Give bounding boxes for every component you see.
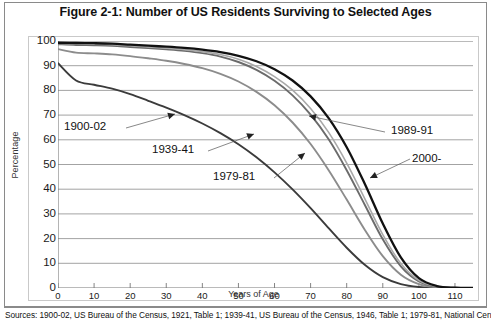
series-line-1979-81 bbox=[58, 44, 473, 288]
series-label-1979-81: 1979-81 bbox=[213, 170, 255, 182]
sources-divider bbox=[4, 307, 487, 308]
y-tick-label: 60 bbox=[30, 134, 56, 145]
arrowhead-icon bbox=[167, 113, 175, 120]
leader-line bbox=[208, 134, 254, 151]
y-axis-title: Percentage bbox=[10, 110, 20, 200]
chart-canvas bbox=[58, 41, 473, 288]
data-series-group bbox=[58, 43, 473, 288]
y-tick-label: 100 bbox=[30, 35, 56, 46]
series-line-1939-41 bbox=[58, 49, 473, 288]
series-line-1900-02 bbox=[58, 63, 473, 288]
y-tick-label: 30 bbox=[30, 208, 56, 219]
y-tick-label: 50 bbox=[30, 159, 56, 170]
y-tick-label: 40 bbox=[30, 183, 56, 194]
series-label-1939-41: 1939-41 bbox=[152, 143, 194, 155]
arrowhead-icon bbox=[297, 153, 305, 160]
figure-screenshot: Figure 2-1: Number of US Residents Survi… bbox=[0, 0, 491, 329]
sources-note: Sources: 1900-02, US Bureau of the Censu… bbox=[5, 310, 491, 320]
y-axis-tick-labels: 1009080706050403020100 bbox=[26, 0, 56, 289]
y-tick-label: 10 bbox=[30, 257, 56, 268]
y-tick-label: 90 bbox=[30, 60, 56, 71]
leader-line bbox=[126, 114, 175, 128]
page-title: Figure 2-1: Number of US Residents Survi… bbox=[5, 5, 486, 19]
series-label-1900-02: 1900-02 bbox=[64, 120, 106, 132]
x-axis-ticks bbox=[58, 283, 455, 288]
leader-line bbox=[309, 116, 385, 132]
y-tick-label: 70 bbox=[30, 109, 56, 120]
series-label-2000: 2000- bbox=[412, 152, 441, 164]
x-axis-title: Years of Age bbox=[28, 289, 479, 299]
series-label-1989-91: 1989-91 bbox=[391, 124, 433, 136]
y-tick-label: 20 bbox=[30, 233, 56, 244]
y-tick-label: 80 bbox=[30, 84, 56, 95]
plot-area: 1900-021939-411979-811989-912000- bbox=[58, 41, 473, 288]
